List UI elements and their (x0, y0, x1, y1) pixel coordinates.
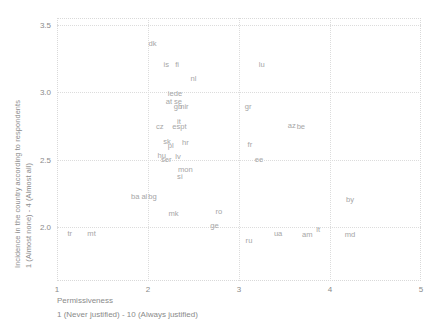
data-point-label-at: at (166, 98, 172, 106)
data-point-label-az: az (288, 122, 296, 130)
x-axis-tick-label: 3 (227, 285, 251, 294)
data-point-label-si: si (177, 173, 182, 181)
data-point-label-al: al (141, 194, 147, 202)
data-point-label-ser: ser (161, 156, 172, 164)
gridline-horizontal (57, 227, 421, 228)
gridline-horizontal (57, 92, 421, 93)
data-point-label-ba: ba (131, 194, 139, 202)
y-axis-tick-label: 3.0 (13, 88, 51, 97)
x-axis-tick-label: 5 (409, 285, 433, 294)
y-axis-title-line-1: Incidence in the country according to re… (13, 100, 22, 268)
y-axis-title: Incidence in the country according to re… (0, 0, 34, 290)
gridline-horizontal (57, 25, 421, 26)
data-point-label-pl: pl (168, 142, 174, 150)
data-point-label-fr: fr (248, 141, 253, 149)
data-point-label-ee: ee (255, 156, 263, 164)
data-point-label-cz: cz (156, 123, 164, 131)
y-axis-title-line-2: 1 (Almost none) - 4 (Almost all) (24, 163, 33, 268)
gridline-vertical (148, 18, 149, 281)
gridline-vertical (239, 18, 240, 281)
data-point-label-tr: tr (67, 230, 72, 238)
x-axis-subtitle: 1 (Never justified) - 10 (Always justifi… (57, 310, 198, 319)
plot-area: 3.53.02.52.0 12345 dkisfinlluiedeatsegbn… (57, 18, 421, 281)
data-point-label-fi: fi (175, 61, 179, 69)
data-point-label-nl: nl (191, 75, 197, 83)
data-point-label-is: is (163, 61, 168, 69)
data-point-label-es: es (172, 123, 180, 131)
y-axis-tick-label: 2.0 (13, 223, 51, 232)
x-axis-title: Permissiveness (57, 296, 113, 305)
data-point-label-md: md (345, 231, 356, 239)
data-point-label-am: am (302, 231, 313, 239)
x-axis-tick-label: 1 (45, 285, 69, 294)
y-axis-tick-label: 3.5 (13, 20, 51, 29)
data-point-label-nir: nir (180, 103, 188, 111)
data-point-label-mt: mt (87, 230, 95, 238)
data-point-label-hr: hr (182, 140, 189, 148)
data-point-label-bg: bg (148, 194, 156, 202)
data-point-label-lv: lv (175, 153, 180, 161)
data-point-label-lt: lt (316, 226, 320, 234)
data-point-label-lu: lu (259, 61, 265, 69)
data-point-label-be: be (297, 123, 305, 131)
data-point-label-dk: dk (149, 40, 157, 48)
x-axis-tick-label: 2 (136, 285, 160, 294)
data-point-label-ge: ge (210, 222, 218, 230)
y-axis-tick-label: 2.5 (13, 155, 51, 164)
data-point-label-by: by (346, 196, 354, 204)
scatter-plot-figure: Incidence in the country according to re… (0, 0, 443, 327)
gridline-horizontal (57, 160, 421, 161)
gridline-vertical (330, 18, 331, 281)
x-axis-tick-label: 4 (318, 285, 342, 294)
data-point-label-mk: mk (168, 210, 178, 218)
data-point-label-ua: ua (274, 230, 282, 238)
data-point-label-pt: pt (180, 123, 186, 131)
data-point-label-ru: ru (246, 237, 253, 245)
data-point-label-gr: gr (245, 103, 252, 111)
data-point-label-ro: ro (216, 208, 223, 216)
